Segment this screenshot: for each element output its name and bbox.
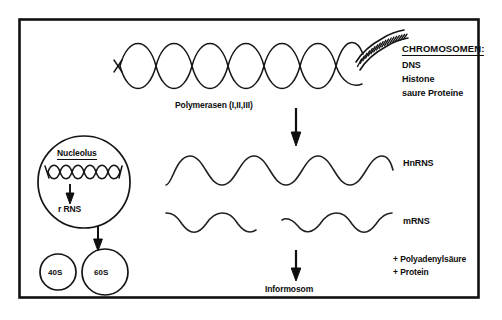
polymerasen-label: Polymerasen (I,II,III) — [175, 101, 253, 111]
addition-protein: + Protein — [393, 268, 429, 278]
subunit-60s-label: 60S — [94, 268, 108, 277]
nucleolus-title: Nucleolus — [57, 149, 97, 160]
rrns-label: r RNS — [58, 205, 81, 215]
figure-root: CHROMOSOMEN: DNS Histone saure Proteine … — [0, 0, 502, 320]
informosom-label: Informosom — [265, 285, 313, 295]
subunit-40s-label: 40S — [48, 268, 62, 277]
addition-polyadenylsaeure: + Polyadenylsäure — [393, 255, 466, 265]
chromosomen-header: CHROMOSOMEN: — [402, 44, 484, 56]
mrns-label: mRNS — [403, 216, 430, 226]
chromosome-component-histone: Histone — [402, 74, 434, 84]
chromosome-component-saure-proteine: saure Proteine — [402, 88, 463, 98]
hnrns-label: HnRNS — [403, 158, 434, 168]
chromosome-component-dns: DNS — [402, 60, 421, 70]
